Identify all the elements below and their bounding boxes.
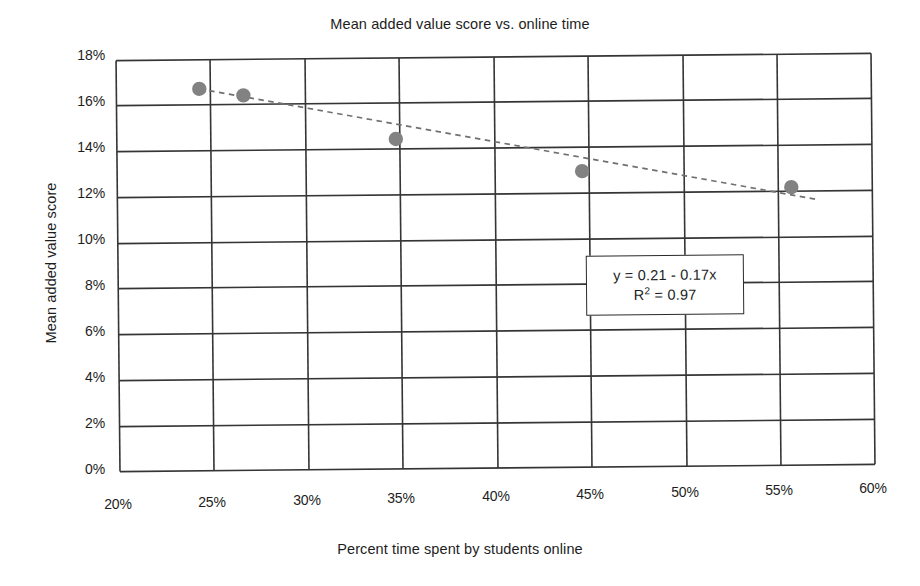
y-tick-label-16: 16% xyxy=(53,93,105,109)
x-tick-label-40: 40% xyxy=(466,488,526,504)
vertical-gridlines xyxy=(116,53,875,471)
x-tick-label-50: 50% xyxy=(655,484,715,500)
scatter-chart: Mean added value score vs. online time P… xyxy=(0,0,920,586)
y-tick-label-14: 14% xyxy=(53,139,105,155)
y-tick-label-12: 12% xyxy=(53,185,105,201)
data-point xyxy=(236,88,251,103)
y-tick-label-2: 2% xyxy=(53,415,105,431)
x-tick-label-25: 25% xyxy=(182,494,242,510)
gridline-x-60 xyxy=(871,53,875,464)
y-tick-label-18: 18% xyxy=(53,47,105,63)
y-tick-label-4: 4% xyxy=(53,369,105,385)
x-tick-label-30: 30% xyxy=(277,492,337,508)
x-tick-label-55: 55% xyxy=(749,482,809,498)
y-axis-title: Mean added value score xyxy=(43,133,59,393)
y-tick-label-0: 0% xyxy=(53,461,105,477)
gridline-x-25 xyxy=(210,60,214,471)
y-tick-label-10: 10% xyxy=(53,231,105,247)
gridline-x-30 xyxy=(305,59,309,470)
x-tick-label-45: 45% xyxy=(560,486,620,502)
data-point xyxy=(389,132,404,147)
x-tick-label-35: 35% xyxy=(371,490,431,506)
gridline-x-35 xyxy=(399,58,403,469)
plot-area xyxy=(116,53,875,471)
x-axis-title: Percent time spent by students online xyxy=(0,541,920,557)
x-tick-label-60: 60% xyxy=(843,480,903,496)
gridline-x-40 xyxy=(494,57,498,468)
gridline-x-55 xyxy=(777,54,781,465)
y-tick-label-6: 6% xyxy=(53,323,105,339)
trendline-equation-box: y = 0.21 - 0.17x R2 = 0.97 xyxy=(586,254,745,315)
x-tick-label-20: 20% xyxy=(88,496,148,512)
data-point xyxy=(575,164,590,179)
data-point xyxy=(784,180,799,195)
r-squared-text: R2 = 0.97 xyxy=(634,285,697,303)
r-squared-value: = 0.97 xyxy=(650,287,696,303)
trendline-equation-text: y = 0.21 - 0.17x xyxy=(613,267,717,284)
r-squared-symbol: R xyxy=(634,287,645,303)
y-tick-label-8: 8% xyxy=(53,277,105,293)
data-point xyxy=(192,82,207,97)
chart-title: Mean added value score vs. online time xyxy=(0,16,920,32)
gridline-x-20 xyxy=(116,61,120,472)
